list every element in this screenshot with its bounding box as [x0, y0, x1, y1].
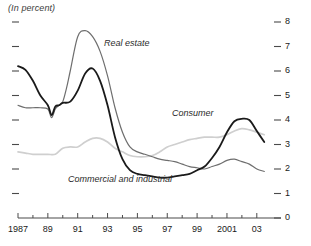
- y-axis-tick-label: 7: [285, 41, 290, 51]
- series-label-real-estate: Real estate: [104, 38, 150, 48]
- y-axis-tick-label: 1: [285, 188, 290, 198]
- series-line-real-estate: [18, 31, 264, 172]
- y-axis-tick-label: 8: [285, 16, 290, 26]
- y-axis-tick-label: 0: [285, 212, 290, 222]
- x-axis-tick-label: 97: [153, 224, 181, 234]
- y-axis-tick-label: 3: [285, 139, 290, 149]
- x-axis-tick-label: 89: [34, 224, 62, 234]
- x-axis-tick-label: 1987: [4, 224, 32, 234]
- x-axis-tick-label: 93: [94, 224, 122, 234]
- x-axis-tick-label: 99: [183, 224, 211, 234]
- x-axis-tick-label: 2001: [213, 224, 241, 234]
- y-axis-tick-label: 6: [285, 65, 290, 75]
- plot-area: [0, 0, 311, 246]
- x-axis-tick-label: 03: [243, 224, 271, 234]
- x-axis-tick-label: 95: [123, 224, 151, 234]
- x-axis-tick-label: 91: [64, 224, 92, 234]
- y-axis-tick-label: 2: [285, 163, 290, 173]
- series-line-commercial-and-industrial: [18, 66, 264, 178]
- line-chart: (In percent) 012345678 19878991939597992…: [0, 0, 311, 246]
- series-label-commercial-and-industrial: Commercial and industrial: [68, 174, 172, 184]
- series-label-consumer: Consumer: [172, 108, 214, 118]
- y-axis-tick-label: 5: [285, 90, 290, 100]
- y-axis-tick-label: 4: [285, 114, 290, 124]
